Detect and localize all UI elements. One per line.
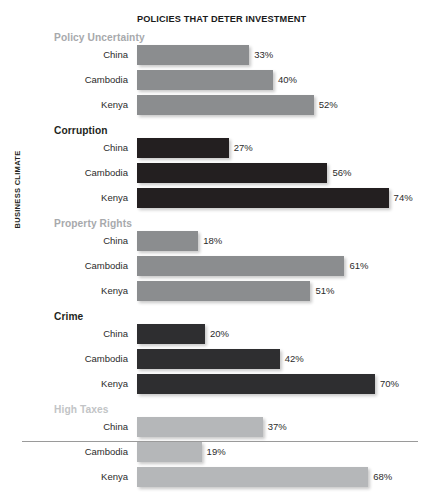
- bar-group: Property RightsChina18%Cambodia61%Kenya5…: [0, 216, 430, 301]
- bar-row-label: Kenya: [0, 95, 133, 115]
- bar: [137, 163, 327, 183]
- bar-value-label: 40%: [273, 70, 297, 90]
- bar-value-label: 37%: [263, 417, 287, 437]
- bar-track: 51%: [137, 281, 430, 301]
- bar: [137, 417, 263, 437]
- bar: [137, 467, 368, 487]
- bar: [137, 95, 314, 115]
- bar-value-label: 61%: [344, 256, 368, 276]
- bar-group-rows: China37%Cambodia19%Kenya68%: [0, 417, 430, 487]
- bar-row: Kenya68%: [0, 467, 430, 487]
- bar: [137, 138, 229, 158]
- bar-groups-container: Policy UncertaintyChina33%Cambodia40%Ken…: [0, 30, 430, 495]
- bar-row: China37%: [0, 417, 430, 437]
- bar-value-label: 18%: [198, 231, 222, 251]
- bar-value-label: 52%: [314, 95, 338, 115]
- bar-group-title: Property Rights: [0, 216, 430, 231]
- bar-row: Kenya74%: [0, 188, 430, 208]
- bar-row: China18%: [0, 231, 430, 251]
- bar-row: China20%: [0, 324, 430, 344]
- bar-row: Kenya51%: [0, 281, 430, 301]
- bar-row-label: China: [0, 138, 133, 158]
- bottom-divider: [22, 441, 418, 442]
- bar-row-label: Kenya: [0, 281, 133, 301]
- bar-row-label: Cambodia: [0, 256, 133, 276]
- bar-row-label: Cambodia: [0, 163, 133, 183]
- bar-value-label: 19%: [202, 442, 226, 462]
- bar-group-title: Corruption: [0, 123, 430, 138]
- bar-group-rows: China27%Cambodia56%Kenya74%: [0, 138, 430, 208]
- bar-row-label: China: [0, 324, 133, 344]
- bar-track: 19%: [137, 442, 430, 462]
- bar-group-title: Policy Uncertainty: [0, 30, 430, 45]
- bar-row: Cambodia61%: [0, 256, 430, 276]
- bar-row-label: China: [0, 45, 133, 65]
- bar-track: 74%: [137, 188, 430, 208]
- bar-row: Cambodia56%: [0, 163, 430, 183]
- bar-track: 20%: [137, 324, 430, 344]
- bar-group-rows: China18%Cambodia61%Kenya51%: [0, 231, 430, 301]
- bar-track: 37%: [137, 417, 430, 437]
- bar-track: 70%: [137, 374, 430, 394]
- bar: [137, 231, 198, 251]
- bar-value-label: 51%: [310, 281, 334, 301]
- bar-value-label: 42%: [280, 349, 304, 369]
- bar-track: 18%: [137, 231, 430, 251]
- bar: [137, 442, 202, 462]
- bar-group: CrimeChina20%Cambodia42%Kenya70%: [0, 309, 430, 394]
- bar-row: Kenya70%: [0, 374, 430, 394]
- bar-row: China27%: [0, 138, 430, 158]
- bar: [137, 324, 205, 344]
- bar-value-label: 56%: [327, 163, 351, 183]
- bar-track: 33%: [137, 45, 430, 65]
- bar-group-rows: China20%Cambodia42%Kenya70%: [0, 324, 430, 394]
- bar-value-label: 27%: [229, 138, 253, 158]
- bar-track: 61%: [137, 256, 430, 276]
- bar-group: High TaxesChina37%Cambodia19%Kenya68%: [0, 402, 430, 487]
- bar-row: Cambodia40%: [0, 70, 430, 90]
- bar: [137, 45, 249, 65]
- bar-track: 52%: [137, 95, 430, 115]
- bar-row-label: Cambodia: [0, 349, 133, 369]
- bar-row-label: China: [0, 231, 133, 251]
- bar-value-label: 68%: [368, 467, 392, 487]
- bar-track: 42%: [137, 349, 430, 369]
- bar-row-label: Kenya: [0, 374, 133, 394]
- bar-group: Policy UncertaintyChina33%Cambodia40%Ken…: [0, 30, 430, 115]
- bar-value-label: 74%: [389, 188, 413, 208]
- bar-row-label: Cambodia: [0, 70, 133, 90]
- bar-track: 56%: [137, 163, 430, 183]
- chart-title: POLICIES THAT DETER INVESTMENT: [137, 14, 306, 24]
- bar: [137, 70, 273, 90]
- bar-row: China33%: [0, 45, 430, 65]
- bar-row-label: Kenya: [0, 467, 133, 487]
- bar-track: 68%: [137, 467, 430, 487]
- bar: [137, 188, 389, 208]
- bar: [137, 281, 310, 301]
- bar-group-title: High Taxes: [0, 402, 430, 417]
- bar-value-label: 20%: [205, 324, 229, 344]
- bar-row-label: Cambodia: [0, 442, 133, 462]
- bar: [137, 349, 280, 369]
- bar-group: CorruptionChina27%Cambodia56%Kenya74%: [0, 123, 430, 208]
- bar-value-label: 33%: [249, 45, 273, 65]
- bar-row: Cambodia19%: [0, 442, 430, 462]
- bar-track: 40%: [137, 70, 430, 90]
- bar-track: 27%: [137, 138, 430, 158]
- bar: [137, 256, 344, 276]
- bar-value-label: 70%: [375, 374, 399, 394]
- bar-row: Cambodia42%: [0, 349, 430, 369]
- bar-group-title: Crime: [0, 309, 430, 324]
- bar-group-rows: China33%Cambodia40%Kenya52%: [0, 45, 430, 115]
- bar-row-label: Kenya: [0, 188, 133, 208]
- bar: [137, 374, 375, 394]
- bar-row: Kenya52%: [0, 95, 430, 115]
- bar-row-label: China: [0, 417, 133, 437]
